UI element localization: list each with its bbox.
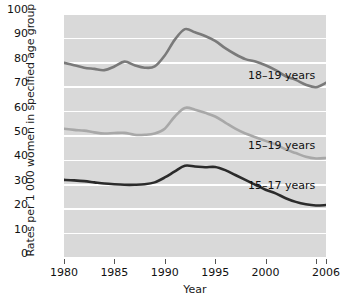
x-tick-mark — [114, 259, 115, 264]
series-label-0: 18–19 years — [248, 69, 315, 82]
x-tick-mark — [316, 259, 317, 264]
x-tick-label: 2006 — [304, 266, 348, 279]
y-tick-label: 80 — [0, 53, 28, 64]
x-tick-mark — [215, 259, 216, 264]
x-tick-label: 1980 — [42, 266, 86, 279]
x-tick-mark — [165, 259, 166, 264]
y-tick-label: 40 — [0, 150, 28, 161]
series-lines — [64, 14, 326, 258]
series-label-2: 15–17 years — [248, 179, 315, 192]
x-tick-mark — [326, 259, 327, 264]
y-tick-label: 10 — [0, 224, 28, 235]
y-tick-label: 30 — [0, 175, 28, 186]
x-tick-label: 2000 — [244, 266, 288, 279]
chart-figure: Rates per 1 000 women in specified age g… — [0, 0, 359, 306]
y-tick-label: 60 — [0, 102, 28, 113]
x-tick-mark — [64, 259, 65, 264]
series-label-1: 15–19 years — [248, 139, 315, 152]
y-tick-label: 0 — [0, 248, 28, 259]
x-tick-label: 1995 — [193, 266, 237, 279]
y-tick-label: 50 — [0, 126, 28, 137]
y-tick-label: 100 — [0, 4, 28, 15]
x-tick-mark — [266, 259, 267, 264]
y-tick-label: 70 — [0, 77, 28, 88]
x-tick-label: 1985 — [92, 266, 136, 279]
x-axis-title: Year — [64, 283, 326, 296]
y-tick-label: 20 — [0, 199, 28, 210]
x-tick-label: 1990 — [143, 266, 187, 279]
y-tick-label: 90 — [0, 28, 28, 39]
plot-area — [64, 14, 326, 258]
